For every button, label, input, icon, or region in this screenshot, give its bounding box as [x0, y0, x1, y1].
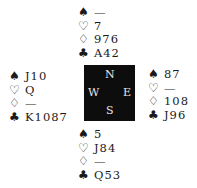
- south-hearts: ♡J84: [78, 142, 121, 156]
- diamond-icon: ♢: [9, 97, 25, 111]
- heart-icon: ♡: [148, 82, 164, 96]
- spade-icon: ♠: [148, 68, 164, 82]
- east-clubs: ♣J96: [148, 109, 189, 123]
- west-diamonds-cards: —: [25, 97, 38, 111]
- north-diamonds: ♢976: [78, 33, 120, 47]
- east-hearts-cards: —: [164, 82, 177, 96]
- west-clubs: ♣K1087: [9, 111, 68, 125]
- north-spades: ♠—: [78, 6, 120, 20]
- compass-south-label: S: [106, 104, 114, 117]
- west-diamonds: ♢—: [9, 97, 68, 111]
- spade-icon: ♠: [78, 128, 94, 142]
- club-icon: ♣: [148, 109, 164, 123]
- compass-east-label: E: [123, 86, 131, 99]
- north-clubs-cards: A42: [94, 47, 120, 61]
- club-icon: ♣: [78, 47, 94, 61]
- south-clubs: ♣Q53: [78, 169, 121, 183]
- diamond-icon: ♢: [78, 155, 94, 169]
- west-hand: ♠J10 ♡Q ♢— ♣K1087: [9, 70, 68, 124]
- diamond-icon: ♢: [148, 95, 164, 109]
- south-spades-cards: 5: [94, 128, 102, 142]
- south-clubs-cards: Q53: [94, 169, 121, 183]
- north-hearts: ♡7: [78, 20, 120, 34]
- west-clubs-cards: K1087: [25, 111, 68, 125]
- heart-icon: ♡: [78, 20, 94, 34]
- east-spades: ♠87: [148, 68, 189, 82]
- north-diamonds-cards: 976: [94, 33, 119, 47]
- west-spades-cards: J10: [25, 70, 47, 84]
- south-spades: ♠5: [78, 128, 121, 142]
- heart-icon: ♡: [9, 84, 25, 98]
- east-clubs-cards: J96: [164, 109, 186, 123]
- diamond-icon: ♢: [78, 33, 94, 47]
- heart-icon: ♡: [78, 142, 94, 156]
- east-hearts: ♡—: [148, 82, 189, 96]
- compass-table: N W E S: [84, 65, 135, 121]
- south-diamonds-cards: —: [94, 155, 107, 169]
- south-diamonds: ♢—: [78, 155, 121, 169]
- west-hearts: ♡Q: [9, 84, 68, 98]
- east-diamonds: ♢108: [148, 95, 189, 109]
- south-hearts-cards: J84: [94, 142, 116, 156]
- spade-icon: ♠: [78, 6, 94, 20]
- north-clubs: ♣A42: [78, 47, 120, 61]
- east-spades-cards: 87: [164, 68, 181, 82]
- west-hearts-cards: Q: [25, 84, 35, 98]
- north-hand: ♠— ♡7 ♢976 ♣A42: [78, 6, 120, 60]
- south-hand: ♠5 ♡J84 ♢— ♣Q53: [78, 128, 121, 182]
- north-spades-cards: —: [94, 6, 107, 20]
- compass-north-label: N: [105, 68, 115, 81]
- north-hearts-cards: 7: [94, 20, 102, 34]
- club-icon: ♣: [9, 111, 25, 125]
- club-icon: ♣: [78, 169, 94, 183]
- compass-west-label: W: [88, 86, 99, 99]
- spade-icon: ♠: [9, 70, 25, 84]
- west-spades: ♠J10: [9, 70, 68, 84]
- east-hand: ♠87 ♡— ♢108 ♣J96: [148, 68, 189, 122]
- east-diamonds-cards: 108: [164, 95, 189, 109]
